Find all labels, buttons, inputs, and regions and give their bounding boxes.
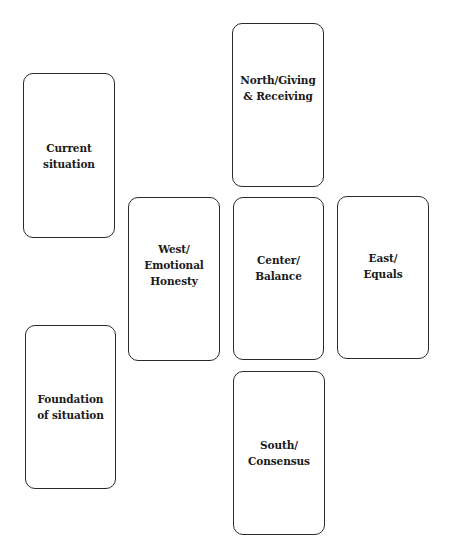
card-center: Center/ Balance xyxy=(233,197,324,360)
card-label: South/ Consensus xyxy=(248,437,310,469)
card-label: East/ Equals xyxy=(363,250,402,282)
card-label: Center/ Balance xyxy=(255,252,301,284)
card-label: North/Giving & Receiving xyxy=(240,72,315,104)
card-label: Current situation xyxy=(43,140,95,172)
card-west: West/ Emotional Honesty xyxy=(128,197,220,361)
card-south: South/ Consensus xyxy=(233,371,325,535)
card-north: North/Giving & Receiving xyxy=(232,23,324,187)
card-east: East/ Equals xyxy=(337,196,429,359)
card-foundation: Foundation of situation xyxy=(25,325,116,489)
card-label: Foundation of situation xyxy=(37,391,104,423)
card-current-situation: Current situation xyxy=(23,73,115,238)
card-label: West/ Emotional Honesty xyxy=(144,241,204,289)
